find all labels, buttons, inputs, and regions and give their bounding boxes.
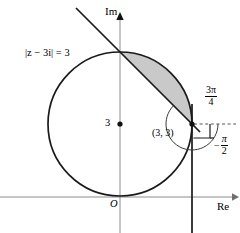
- chord-line: [76, 8, 200, 132]
- angle-lower-numerator: π: [221, 134, 228, 144]
- origin-label: O: [110, 199, 118, 210]
- diagram-canvas: [0, 0, 240, 233]
- argand-diagram-figure: Im Re O |z − 3i| = 3 3 (3, 3) 3π 4 − π 2: [0, 0, 240, 233]
- right-angle-marker: [194, 124, 211, 138]
- angle-label-3pi-over-4: 3π 4: [205, 85, 217, 107]
- angle-upper-numerator: 3π: [205, 85, 217, 95]
- center-point-dot: [117, 121, 122, 126]
- point-3-3-dot: [189, 121, 194, 126]
- real-axis-label: Re: [217, 201, 229, 212]
- point-coordinates-label: (3, 3): [152, 128, 174, 138]
- circle-equation-label: |z − 3i| = 3: [25, 48, 70, 59]
- imaginary-axis-arrowhead: [116, 12, 123, 20]
- angle-lower-sign: −: [214, 140, 220, 151]
- imaginary-axis-label: Im: [105, 6, 117, 17]
- angle-label-minus-pi-over-2: − π 2: [214, 134, 228, 156]
- angle-upper-denominator: 4: [205, 97, 217, 107]
- angle-lower-denominator: 2: [221, 146, 228, 156]
- real-axis-arrowhead: [232, 193, 239, 200]
- center-value-label: 3: [105, 118, 110, 129]
